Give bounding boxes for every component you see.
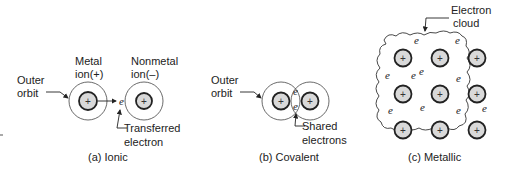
transferred-electron: e bbox=[119, 95, 124, 107]
shared-electrons-label: electrons bbox=[302, 134, 347, 146]
outer-orbit-label: orbit bbox=[211, 87, 232, 99]
covalent-caption: (b) Covalent bbox=[259, 151, 319, 163]
outer-orbit-label: orbit bbox=[17, 87, 38, 99]
metal-ion-label: Metal bbox=[75, 55, 102, 67]
positive-charge-icon: + bbox=[474, 125, 480, 136]
positive-charge-icon: + bbox=[437, 89, 443, 100]
free-electron: e bbox=[455, 34, 460, 46]
positive-charge-icon: + bbox=[474, 53, 480, 64]
free-electron: e bbox=[456, 72, 461, 84]
positive-charge-icon: + bbox=[278, 96, 284, 107]
positive-charge-icon: + bbox=[437, 53, 443, 64]
metallic-caption: (c) Metallic bbox=[408, 151, 462, 163]
metal-ion-label: ion(+) bbox=[75, 68, 103, 80]
free-electron: e bbox=[482, 102, 487, 114]
free-electron: e bbox=[414, 34, 419, 46]
free-electron: e bbox=[385, 69, 390, 81]
bonding-diagram: Outer orbit Metal ion(+) Nonmetal ion(–)… bbox=[0, 0, 506, 175]
shared-electron: e bbox=[293, 100, 298, 112]
outer-orbit-leader bbox=[240, 92, 261, 98]
shared-electrons-label: Shared bbox=[302, 120, 337, 132]
outer-orbit-leader bbox=[46, 92, 68, 98]
ionic-caption: (a) Ionic bbox=[88, 151, 128, 163]
electron-cloud-label: Electron bbox=[451, 4, 491, 16]
positive-charge-icon: + bbox=[85, 96, 91, 107]
transferred-electron-label: Transferred bbox=[124, 122, 180, 134]
positive-charge-icon: + bbox=[400, 53, 406, 64]
positive-charge-icon: + bbox=[307, 96, 313, 107]
outer-orbit-label: Outer bbox=[17, 74, 45, 86]
positive-charge-icon: + bbox=[474, 89, 480, 100]
free-electron: e bbox=[411, 69, 416, 81]
covalent-bond-diagram: Outer orbit + + e e Shared electrons (b)… bbox=[211, 74, 347, 163]
metal-ion-grid: +++++++++ bbox=[395, 50, 486, 139]
free-electron: e bbox=[456, 104, 461, 116]
positive-charge-icon: + bbox=[437, 125, 443, 136]
positive-charge-icon: + bbox=[141, 96, 147, 107]
electron-cloud-label: cloud bbox=[453, 17, 479, 29]
free-electron: e bbox=[388, 104, 393, 116]
nonmetal-ion-label: Nonmetal bbox=[131, 55, 178, 67]
shared-electron: e bbox=[293, 85, 298, 97]
transferred-electron-label: electron bbox=[124, 136, 163, 148]
outer-orbit-label: Outer bbox=[211, 74, 239, 86]
metallic-bond-diagram: Electron cloud +++++++++ eeeeeeeeee (c) … bbox=[376, 4, 491, 163]
free-electron: e bbox=[419, 65, 424, 77]
free-electron: e bbox=[420, 101, 425, 113]
positive-charge-icon: + bbox=[400, 89, 406, 100]
positive-charge-icon: + bbox=[400, 125, 406, 136]
nonmetal-ion-label: ion(–) bbox=[131, 68, 159, 80]
electron-cloud-leader bbox=[425, 18, 449, 31]
ionic-bond-diagram: Outer orbit Metal ion(+) Nonmetal ion(–)… bbox=[17, 55, 180, 163]
